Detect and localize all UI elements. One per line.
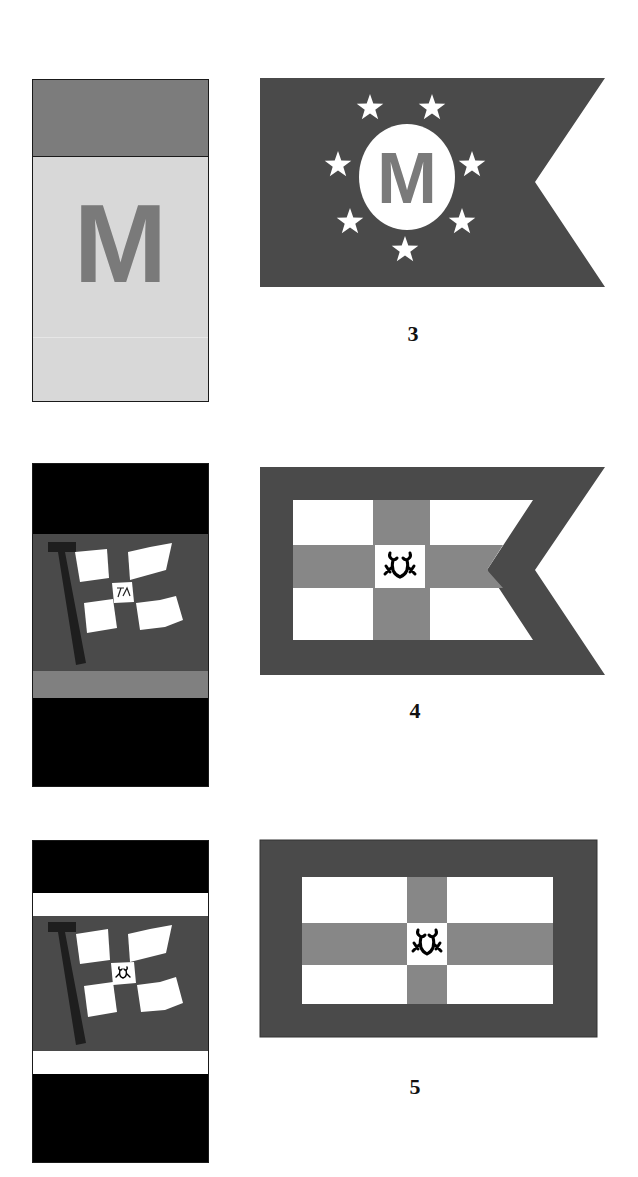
figure-number-3: 3 (393, 321, 433, 347)
funnel-3-faint-line (33, 337, 208, 338)
flag-3 (0, 0, 638, 300)
flag-3-letter: M (367, 142, 447, 214)
flag-4 (0, 460, 638, 680)
figure-number-5: 5 (395, 1074, 435, 1100)
figure-number-4: 4 (395, 698, 435, 724)
flag-5 (0, 835, 638, 1045)
